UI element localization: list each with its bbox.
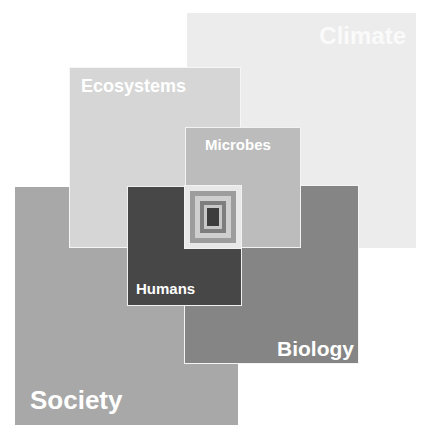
- society-label: Society: [30, 387, 123, 413]
- ecosystems-label: Ecosystems: [81, 77, 186, 95]
- nested-squares-icon: [184, 185, 242, 249]
- humans-label: Humans: [136, 281, 195, 296]
- climate-label: Climate: [319, 24, 406, 48]
- microbes-label: Microbes: [205, 137, 271, 152]
- nested-square-core: [207, 208, 219, 226]
- biology-label: Biology: [277, 338, 354, 359]
